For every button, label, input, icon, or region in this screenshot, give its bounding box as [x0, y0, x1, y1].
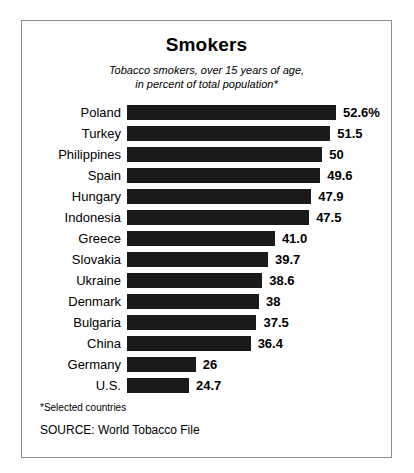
bar-fill — [127, 252, 268, 267]
bar-track: 41.0 — [127, 231, 391, 246]
bar-row: Greece41.0 — [22, 228, 391, 249]
bar-fill — [127, 168, 320, 183]
bar-track: 24.7 — [127, 378, 391, 393]
bar-row: Turkey51.5 — [22, 123, 391, 144]
bar-row: Denmark38 — [22, 291, 391, 312]
bar-value-label: 51.5 — [337, 126, 362, 141]
chart-footnote: *Selected countries — [40, 402, 126, 413]
bar-value-label: 36.4 — [258, 336, 283, 351]
bar-category-label: Denmark — [22, 291, 121, 312]
bar-category-label: Hungary — [22, 186, 121, 207]
bar-chart-plot-area: Poland52.6%Turkey51.5Philippines50Spain4… — [22, 102, 391, 396]
chart-card: Smokers Tobacco smokers, over 15 years o… — [21, 20, 392, 458]
bar-track: 51.5 — [127, 126, 391, 141]
bar-row: Slovakia39.7 — [22, 249, 391, 270]
bar-value-label: 38.6 — [269, 273, 294, 288]
chart-source: SOURCE: World Tobacco File — [40, 423, 200, 437]
bar-track: 36.4 — [127, 336, 391, 351]
bar-category-label: Ukraine — [22, 270, 121, 291]
bar-row: Poland52.6% — [22, 102, 391, 123]
bar-track: 52.6% — [127, 105, 391, 120]
bar-row: Indonesia47.5 — [22, 207, 391, 228]
bar-track: 37.5 — [127, 315, 391, 330]
chart-subtitle-line-2: in percent of total population* — [22, 77, 391, 91]
bar-value-label: 26 — [203, 357, 217, 372]
bar-category-label: Philippines — [22, 144, 121, 165]
bar-track: 38 — [127, 294, 391, 309]
bar-fill — [127, 105, 336, 120]
bar-category-label: Turkey — [22, 123, 121, 144]
bar-value-label: 39.7 — [275, 252, 300, 267]
bar-category-label: Indonesia — [22, 207, 121, 228]
bar-value-label: 24.7 — [196, 378, 221, 393]
bar-category-label: U.S. — [22, 375, 121, 396]
bar-row: Germany26 — [22, 354, 391, 375]
bar-row: Hungary47.9 — [22, 186, 391, 207]
bar-fill — [127, 294, 259, 309]
bar-track: 47.5 — [127, 210, 391, 225]
bar-fill — [127, 315, 256, 330]
bar-row: Bulgaria37.5 — [22, 312, 391, 333]
bar-track: 50 — [127, 147, 391, 162]
chart-subtitle-line-1: Tobacco smokers, over 15 years of age, — [22, 63, 391, 77]
chart-title: Smokers — [22, 34, 391, 56]
bar-value-label: 47.5 — [316, 210, 341, 225]
bar-fill — [127, 189, 311, 204]
bar-category-label: China — [22, 333, 121, 354]
bar-value-label: 52.6% — [343, 105, 380, 120]
bar-value-label: 41.0 — [282, 231, 307, 246]
bar-track: 47.9 — [127, 189, 391, 204]
bar-track: 39.7 — [127, 252, 391, 267]
bar-row: China36.4 — [22, 333, 391, 354]
bar-track: 49.6 — [127, 168, 391, 183]
bar-fill — [127, 273, 262, 288]
bar-category-label: Slovakia — [22, 249, 121, 270]
bar-fill — [127, 336, 251, 351]
chart-subtitle: Tobacco smokers, over 15 years of age, i… — [22, 63, 391, 91]
bar-value-label: 50 — [329, 147, 343, 162]
bar-category-label: Bulgaria — [22, 312, 121, 333]
bar-value-label: 38 — [266, 294, 280, 309]
bar-row: U.S.24.7 — [22, 375, 391, 396]
bar-fill — [127, 231, 275, 246]
bar-fill — [127, 126, 330, 141]
bar-category-label: Spain — [22, 165, 121, 186]
bar-track: 26 — [127, 357, 391, 372]
bar-value-label: 47.9 — [318, 189, 343, 204]
bar-value-label: 37.5 — [263, 315, 288, 330]
bar-fill — [127, 378, 189, 393]
bar-track: 38.6 — [127, 273, 391, 288]
bar-category-label: Poland — [22, 102, 121, 123]
bar-fill — [127, 147, 322, 162]
bar-row: Philippines50 — [22, 144, 391, 165]
bar-category-label: Greece — [22, 228, 121, 249]
bar-row: Spain49.6 — [22, 165, 391, 186]
bar-row: Ukraine38.6 — [22, 270, 391, 291]
bar-category-label: Germany — [22, 354, 121, 375]
bar-fill — [127, 210, 309, 225]
bar-value-label: 49.6 — [327, 168, 352, 183]
bar-fill — [127, 357, 196, 372]
